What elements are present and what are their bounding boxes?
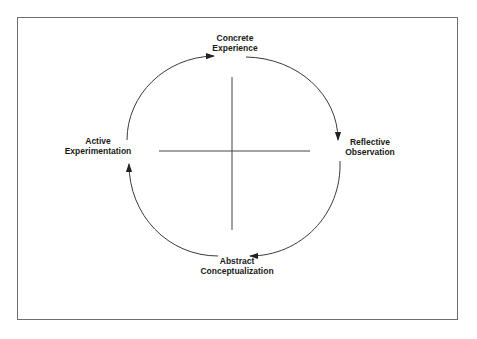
- arrow-arc-bottom-left: [129, 164, 218, 256]
- arrow-arc-top-right: [246, 57, 338, 140]
- stage-label-line2: Experience: [212, 43, 257, 53]
- stage-label-line1: Active: [65, 136, 132, 146]
- stage-label-line1: Concrete: [212, 33, 257, 43]
- arrow-arc-bottom-right: [250, 161, 340, 256]
- stage-label-line2: Experimentation: [65, 146, 132, 156]
- stage-abstract-conceptualization: Abstract Conceptualization: [200, 256, 273, 276]
- stage-label-line1: Abstract: [200, 256, 273, 266]
- stage-concrete-experience: Concrete Experience: [212, 33, 257, 53]
- stage-active-experimentation: Active Experimentation: [65, 136, 132, 156]
- stage-reflective-observation: Reflective Observation: [345, 137, 395, 157]
- stage-label-line1: Reflective: [345, 137, 395, 147]
- stage-label-line2: Observation: [345, 147, 395, 157]
- arrow-arc-top-left: [127, 56, 214, 140]
- stage-label-line2: Conceptualization: [200, 266, 273, 276]
